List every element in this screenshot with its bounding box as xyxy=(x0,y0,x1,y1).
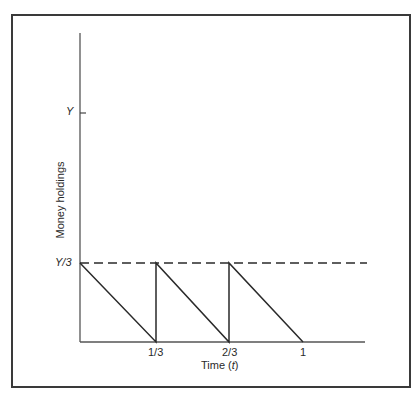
x-axis-label: Time (t) xyxy=(201,359,239,371)
x-tick-label-two-thirds: 2/3 xyxy=(222,346,237,358)
x-axis-label-suffix: ) xyxy=(235,359,239,371)
y-axis-label: Money holdings xyxy=(54,161,66,238)
x-tick-label-one-third: 1/3 xyxy=(148,346,163,358)
x-axis-label-prefix: Time ( xyxy=(201,359,232,371)
x-tick-label-one: 1 xyxy=(300,346,306,358)
y-tick-label-Y: Y xyxy=(66,105,73,117)
y-tick-label-Y-third-text: Y/3 xyxy=(55,256,72,268)
y-tick-label-Y-third: Y/3 xyxy=(55,256,72,268)
money-holdings-sawtooth xyxy=(80,263,303,342)
